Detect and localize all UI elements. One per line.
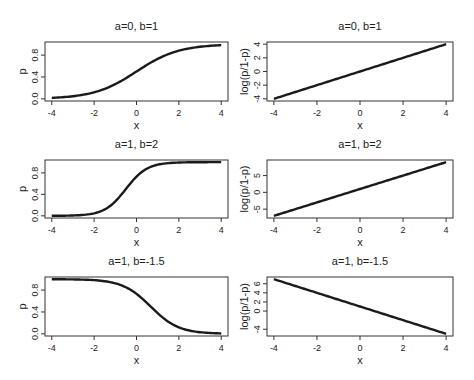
y-tick-label: 2 [252,299,262,304]
x-tick-label: 4 [219,108,224,118]
y-tick-label: 0 [252,309,262,314]
y-tick-label: 0.4 [30,306,40,319]
x-tick-label: -4 [270,343,278,353]
plot-frame [45,277,228,336]
y-tick-label: 0 [252,190,262,195]
y-tick-label: 0.0 [30,328,40,341]
plot-panel-row2-left: a=1, b=2-4-2024x0.00.40.8p [16,138,228,248]
y-axis-label: log(p/1-p) [238,283,250,330]
x-tick-label: -4 [48,343,56,353]
y-tick-label: -4 [252,325,262,333]
x-axis-label: x [357,236,363,248]
y-tick-label: -2 [252,81,262,89]
figure-grid: a=0, b=1-4-2024x0.00.40.8pa=0, b=1-4-202… [0,0,474,380]
x-tick-label: 2 [176,343,181,353]
plot-frame [45,160,228,218]
y-tick-label: 0.8 [30,49,40,62]
y-tick-label: 0.4 [30,71,40,84]
y-tick-label: 0.0 [30,93,40,106]
data-curve [52,45,221,98]
x-tick-label: -2 [90,225,98,235]
data-curve [274,279,446,334]
x-tick-label: -4 [270,108,278,118]
y-axis-label: p [16,186,28,192]
x-tick-label: 4 [444,225,449,235]
plot-panel-row3-left: a=1, b=-1.5-4-2024x0.00.40.8p [16,255,228,366]
y-axis-label: p [16,68,28,74]
y-tick-label: -4 [252,95,262,103]
x-tick-label: -4 [270,225,278,235]
y-axis-label: log(p/1-p) [238,165,250,212]
x-tick-label: 4 [444,343,449,353]
x-tick-label: -4 [48,225,56,235]
data-curve [52,279,221,333]
x-tick-label: 0 [134,225,139,235]
x-tick-label: -4 [48,108,56,118]
x-axis-label: x [134,236,140,248]
y-axis-label: log(p/1-p) [238,48,250,95]
x-tick-label: 0 [134,108,139,118]
plot-panel-row3-right: a=1, b=-1.5-4-2024x-40246log(p/1-p) [238,255,453,366]
y-tick-label: 0.0 [30,210,40,223]
y-tick-label: 0.8 [30,167,40,180]
x-tick-label: -2 [313,225,321,235]
x-tick-label: 2 [401,225,406,235]
y-tick-label: 4 [252,290,262,295]
x-tick-label: 2 [176,108,181,118]
y-tick-label: -5 [252,205,262,213]
plot-panel-row2-right: a=1, b=2-4-2024x-505log(p/1-p) [238,138,453,248]
plot-title: a=1, b=-1.5 [108,255,164,267]
y-tick-label: 2 [252,55,262,60]
y-tick-label: 6 [252,281,262,286]
y-tick-label: 0.4 [30,188,40,201]
x-tick-label: 0 [134,343,139,353]
plot-panel-row1-left: a=0, b=1-4-2024x0.00.40.8p [16,20,228,131]
y-tick-label: 0.8 [30,284,40,297]
y-tick-label: 4 [252,42,262,47]
x-tick-label: 4 [219,225,224,235]
x-tick-label: -2 [90,108,98,118]
x-tick-label: 4 [444,108,449,118]
x-tick-label: 2 [401,343,406,353]
x-tick-label: 0 [357,343,362,353]
y-axis-label: p [16,303,28,309]
plot-title: a=0, b=1 [115,20,158,32]
plot-title: a=0, b=1 [338,20,381,32]
x-tick-label: 0 [357,108,362,118]
plot-title: a=1, b=2 [115,138,158,150]
x-axis-label: x [357,119,363,131]
x-tick-label: -2 [90,343,98,353]
x-tick-label: -2 [313,343,321,353]
x-axis-label: x [134,119,140,131]
x-tick-label: 0 [357,225,362,235]
plot-panel-row1-right: a=0, b=1-4-2024x-4-2024log(p/1-p) [238,20,453,131]
y-tick-label: 5 [252,173,262,178]
plot-title: a=1, b=-1.5 [332,255,388,267]
data-curve [274,44,446,99]
x-tick-label: 2 [401,108,406,118]
x-tick-label: 2 [176,225,181,235]
plot-canvas: a=0, b=1-4-2024x0.00.40.8pa=0, b=1-4-202… [0,0,474,380]
x-axis-label: x [134,354,140,366]
x-axis-label: x [357,354,363,366]
y-tick-label: 0 [252,69,262,74]
data-curve [52,162,221,216]
x-tick-label: -2 [313,108,321,118]
x-tick-label: 4 [219,343,224,353]
plot-title: a=1, b=2 [338,138,381,150]
data-curve [274,162,446,216]
